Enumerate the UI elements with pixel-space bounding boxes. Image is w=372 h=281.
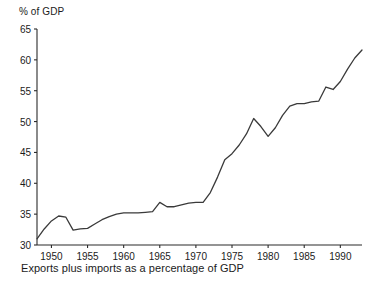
figure-caption: Exports plus imports as a percentage of … — [21, 262, 244, 274]
x-tick-label: 1975 — [212, 251, 252, 262]
x-tick-label: 1960 — [104, 251, 144, 262]
y-tick-label: 55 — [9, 85, 31, 96]
line-chart-svg — [0, 0, 372, 281]
x-tick-label: 1970 — [176, 251, 216, 262]
x-tick-label: 1965 — [140, 251, 180, 262]
y-tick-label: 45 — [9, 147, 31, 158]
plot-area — [0, 0, 372, 281]
axes-group — [37, 29, 362, 245]
y-tick-label: 40 — [9, 178, 31, 189]
x-tick-label: 1990 — [320, 251, 360, 262]
y-tick-label: 65 — [9, 24, 31, 35]
x-tick-label: 1985 — [284, 251, 324, 262]
y-tick-label: 35 — [9, 209, 31, 220]
y-tick-label: 30 — [9, 240, 31, 251]
x-tick-label: 1980 — [248, 251, 288, 262]
x-tick-label: 1950 — [31, 251, 71, 262]
data-series-line — [37, 50, 362, 239]
chart-figure: % of GDP 3035404550556065 19501955196019… — [0, 0, 372, 281]
y-tick-label: 60 — [9, 54, 31, 65]
x-tick-label: 1955 — [68, 251, 108, 262]
y-tick-label: 50 — [9, 116, 31, 127]
